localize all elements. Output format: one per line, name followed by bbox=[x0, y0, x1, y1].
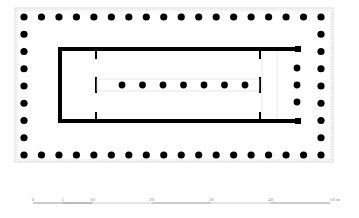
column bbox=[282, 151, 289, 158]
column bbox=[20, 65, 27, 72]
porch-column bbox=[294, 65, 301, 72]
column bbox=[317, 117, 324, 124]
column bbox=[73, 151, 80, 158]
column bbox=[55, 13, 62, 20]
column bbox=[317, 48, 324, 55]
column bbox=[20, 13, 27, 20]
column bbox=[300, 151, 307, 158]
column bbox=[317, 31, 324, 38]
column bbox=[38, 151, 45, 158]
column bbox=[317, 134, 324, 141]
column bbox=[230, 151, 237, 158]
scale-tick-label: 40 bbox=[268, 197, 274, 202]
porch-columns bbox=[294, 65, 301, 106]
column bbox=[90, 13, 97, 20]
column bbox=[300, 13, 307, 20]
scale-tick-label: 0 bbox=[32, 197, 35, 202]
column bbox=[108, 151, 115, 158]
column bbox=[178, 151, 185, 158]
column bbox=[248, 13, 255, 20]
inner-column bbox=[221, 82, 228, 89]
porch-column bbox=[294, 82, 301, 89]
column bbox=[317, 65, 324, 72]
stylobate bbox=[15, 8, 333, 162]
scale-tick-label: 30 bbox=[209, 197, 215, 202]
column bbox=[213, 13, 220, 20]
column bbox=[20, 100, 27, 107]
cella-walls bbox=[58, 46, 301, 124]
inner-colonnade bbox=[119, 82, 249, 89]
inner-column bbox=[160, 82, 167, 89]
inner-column bbox=[242, 82, 249, 89]
column bbox=[125, 151, 132, 158]
inner-column bbox=[201, 82, 208, 89]
column bbox=[20, 31, 27, 38]
column bbox=[178, 13, 185, 20]
column bbox=[73, 13, 80, 20]
column bbox=[38, 13, 45, 20]
scale-tick-label: 5 bbox=[61, 197, 64, 202]
porch-column bbox=[294, 99, 301, 106]
column bbox=[20, 82, 27, 89]
column bbox=[317, 82, 324, 89]
inner-column bbox=[180, 82, 187, 89]
peristyle-columns bbox=[20, 13, 324, 158]
column bbox=[55, 151, 62, 158]
column bbox=[20, 151, 27, 158]
column bbox=[160, 151, 167, 158]
scale-tick-label: 20 bbox=[149, 197, 155, 202]
inner-column bbox=[139, 82, 146, 89]
column bbox=[317, 13, 324, 20]
column bbox=[213, 151, 220, 158]
column bbox=[160, 13, 167, 20]
column bbox=[20, 117, 27, 124]
column bbox=[317, 151, 324, 158]
column bbox=[248, 151, 255, 158]
column bbox=[265, 13, 272, 20]
column bbox=[317, 100, 324, 107]
column bbox=[108, 13, 115, 20]
column bbox=[20, 48, 27, 55]
column bbox=[143, 13, 150, 20]
column bbox=[20, 134, 27, 141]
column bbox=[195, 13, 202, 20]
column bbox=[90, 151, 97, 158]
column bbox=[143, 151, 150, 158]
scale-tick-label: 10 bbox=[90, 197, 96, 202]
column bbox=[282, 13, 289, 20]
inner-column bbox=[119, 82, 126, 89]
temple-plan: 051020304050 m bbox=[0, 0, 359, 218]
scale-tick-label: 50 m bbox=[330, 197, 340, 202]
column bbox=[230, 13, 237, 20]
column bbox=[195, 151, 202, 158]
scale-bar: 051020304050 m bbox=[32, 197, 341, 203]
column bbox=[265, 151, 272, 158]
column bbox=[125, 13, 132, 20]
